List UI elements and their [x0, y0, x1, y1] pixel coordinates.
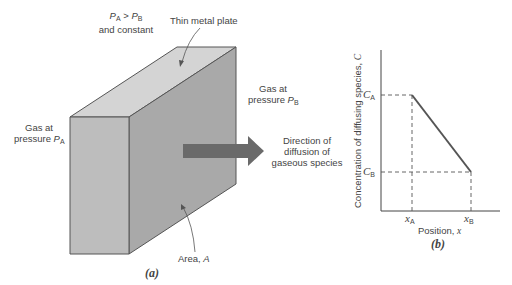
gas-left-label: Gas at pressure PA [14, 122, 64, 147]
diffusion-direction-label: Direction of diffusion of gaseous specie… [262, 135, 352, 168]
x-axis-label: Position, x [418, 225, 461, 237]
plate-label: Thin metal plate [170, 15, 238, 26]
tick-ca: CA [363, 89, 375, 103]
pressure-relation-label: PA > PB and constant [86, 10, 166, 35]
concentration-chart [381, 50, 500, 211]
gas-right-label: Gas at pressure PB [248, 83, 298, 108]
caption-a: (a) [145, 266, 159, 281]
tick-xa: xA [405, 213, 415, 227]
area-label: Area, A [178, 253, 210, 264]
plate-front-face [70, 117, 129, 254]
concentration-profile-line [412, 95, 471, 172]
tick-xb: xB [464, 213, 474, 227]
y-axis-label: Concentration of diffusing species, C [352, 54, 363, 208]
tick-cb: CB [363, 166, 375, 180]
caption-b: (b) [431, 237, 445, 252]
